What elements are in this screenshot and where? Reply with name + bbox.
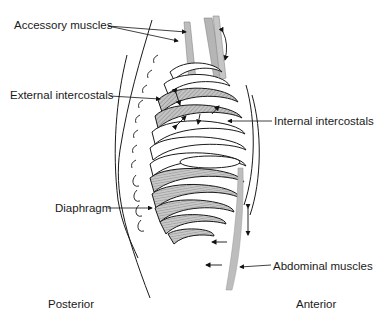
label-accessory-muscles: Accessory muscles	[14, 19, 112, 32]
label-external-intercostals: External intercostals	[10, 89, 114, 102]
label-anterior: Anterior	[296, 298, 336, 311]
label-diaphragm: Diaphragm	[55, 202, 111, 215]
back-contour	[115, 20, 152, 298]
accessory-muscle-shapes	[184, 16, 226, 82]
respiratory-muscles-diagram: Accessory muscles External intercostals …	[0, 0, 382, 319]
label-posterior: Posterior	[48, 298, 94, 311]
label-internal-intercostals: Internal intercostals	[274, 115, 374, 128]
label-abdominal-muscles: Abdominal muscles	[273, 260, 373, 273]
vertebrae	[132, 55, 159, 231]
rib-cage	[150, 63, 259, 244]
abdominal-muscle-shape	[226, 168, 243, 290]
